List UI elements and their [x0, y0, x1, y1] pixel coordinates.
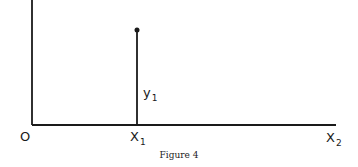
figure-caption: Figure 4	[0, 150, 358, 160]
x2-label-sub: 2	[336, 138, 342, 148]
data-point	[135, 28, 140, 33]
y1-label-main: y	[143, 85, 151, 100]
origin-label: O	[20, 130, 30, 143]
x1-label-main: X	[130, 129, 139, 144]
x1-label: X1	[130, 130, 146, 143]
y1-label-sub: 1	[152, 93, 158, 103]
x2-label-main: X	[326, 130, 335, 145]
y1-label: y1	[143, 86, 157, 99]
diagram-canvas	[0, 0, 358, 167]
x2-label: X2	[326, 131, 342, 144]
x1-label-sub: 1	[140, 137, 146, 147]
